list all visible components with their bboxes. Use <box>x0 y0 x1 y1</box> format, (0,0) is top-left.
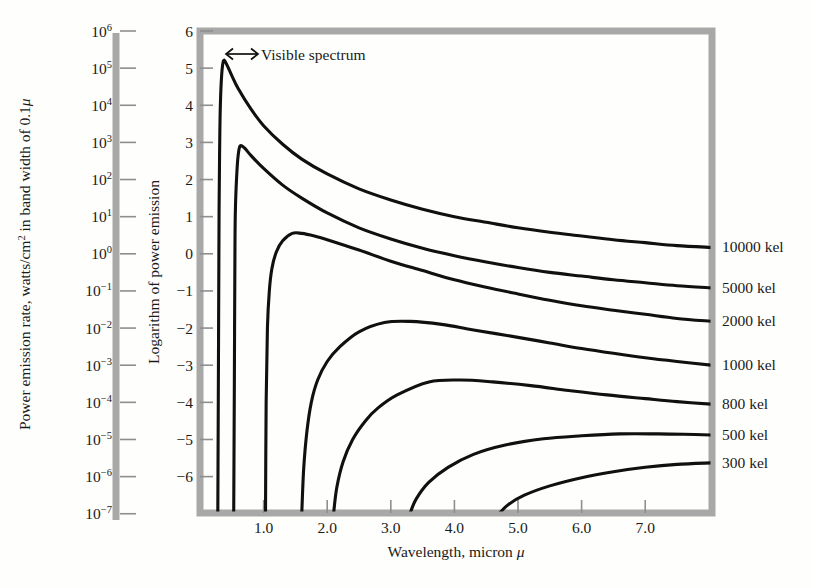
y-axis-tick-label: −5 <box>177 431 194 448</box>
log-axis-tick-label: 103 <box>91 133 112 151</box>
curve-temperature-labels: 10000 kel5000 kel2000 kel1000 kel800 kel… <box>722 238 784 470</box>
y-axis-tick-label: −2 <box>177 320 194 337</box>
curve-temperature-label: 5000 kel <box>722 279 776 296</box>
y-axis-tick-label: −4 <box>177 394 194 411</box>
y-axis-tick-label: 1 <box>185 208 193 225</box>
log-axis-tick-labels: 10610510410310210110010−110−210−310−410−… <box>85 22 112 523</box>
curve-temperature-label: 800 kel <box>722 395 768 412</box>
y-axis-tick-label: 2 <box>185 171 193 188</box>
visible-spectrum-annotation: Visible spectrum <box>226 46 366 63</box>
log-axis-tick-label: 10−7 <box>85 504 112 522</box>
y-axis-tick-label: −3 <box>177 357 194 374</box>
curve-temperature-label: 10000 kel <box>722 238 784 255</box>
log-axis-tick-label: 106 <box>91 22 112 40</box>
curve-temperature-label: 300 kel <box>722 454 768 471</box>
x-axis-title-pre: Wavelength, micron <box>388 543 517 560</box>
chart-figure: 10610510410310210110010−110−210−310−410−… <box>0 0 813 588</box>
log-axis-tick-label: 101 <box>91 207 112 225</box>
left-axis-title: Power emission rate, watts/cm2 in band w… <box>16 98 33 430</box>
y-axis-tick-label: 3 <box>185 134 193 151</box>
planck-curves <box>218 60 712 514</box>
y-axis-tick-label: 6 <box>185 23 193 40</box>
x-axis-tick-labels: 1.02.03.04.05.06.07.0 <box>254 519 655 536</box>
log-axis-tick-label: 10−6 <box>85 467 112 485</box>
planck-curve <box>334 380 712 514</box>
y-axis-tick-label: 5 <box>185 60 193 77</box>
log-axis-tick-label: 10−3 <box>85 356 112 374</box>
x-axis-tick-label: 4.0 <box>445 519 465 536</box>
log-axis-tick-label: 100 <box>91 244 112 262</box>
log-axis-tick-label: 102 <box>91 170 112 188</box>
y-axis-tick-label: 0 <box>185 245 193 262</box>
x-axis-tick-label: 3.0 <box>381 519 401 536</box>
log-axis-tick-label: 104 <box>91 96 113 114</box>
y-axis-title: Logarithm of power emission <box>145 180 162 364</box>
log-axis-tick-label: 10−1 <box>85 281 112 299</box>
plot-frame <box>200 31 712 513</box>
visible-spectrum-label: Visible spectrum <box>261 46 366 63</box>
x-axis-tick-label: 6.0 <box>572 519 592 536</box>
x-axis-tick-label: 2.0 <box>318 519 338 536</box>
left-axis-title-post: in band width of 0.1 <box>16 106 33 235</box>
log-axis-ticks <box>120 31 136 514</box>
x-axis-title-mu: μ <box>516 543 525 560</box>
log-axis-tick-label: 10−2 <box>85 319 112 337</box>
curve-temperature-label: 1000 kel <box>722 356 776 373</box>
svg-text:Power emission rate, watts/cm2: Power emission rate, watts/cm2 in band w… <box>16 98 33 430</box>
curve-temperature-label: 500 kel <box>722 426 768 443</box>
chart-svg: 10610510410310210110010−110−210−310−410−… <box>0 0 813 588</box>
planck-curve <box>218 60 712 514</box>
left-axis-title-mu: μ <box>16 98 33 107</box>
double-headed-arrow-icon <box>226 49 258 60</box>
x-axis-title: Wavelength, micron μ <box>388 543 525 560</box>
log-axis-tick-label: 105 <box>91 59 112 77</box>
left-axis-title-pre: Power emission rate, watts/cm <box>16 241 33 430</box>
planck-curve <box>266 233 712 514</box>
curve-temperature-label: 2000 kel <box>722 312 776 329</box>
log-axis-tick-label: 10−5 <box>85 430 112 448</box>
y-axis-tick-label: −1 <box>177 282 194 299</box>
y-axis-tick-labels: 6543210−1−2−3−4−5−6 <box>177 23 194 486</box>
x-axis-tick-label: 1.0 <box>254 519 274 536</box>
log-axis-tick-label: 10−4 <box>85 393 112 411</box>
planck-curve <box>499 463 712 514</box>
x-axis-tick-label: 5.0 <box>508 519 528 536</box>
y-axis-tick-label: −6 <box>177 468 194 485</box>
planck-curve <box>302 321 712 514</box>
y-axis-tick-label: 4 <box>185 97 193 114</box>
x-axis-tick-label: 7.0 <box>636 519 656 536</box>
